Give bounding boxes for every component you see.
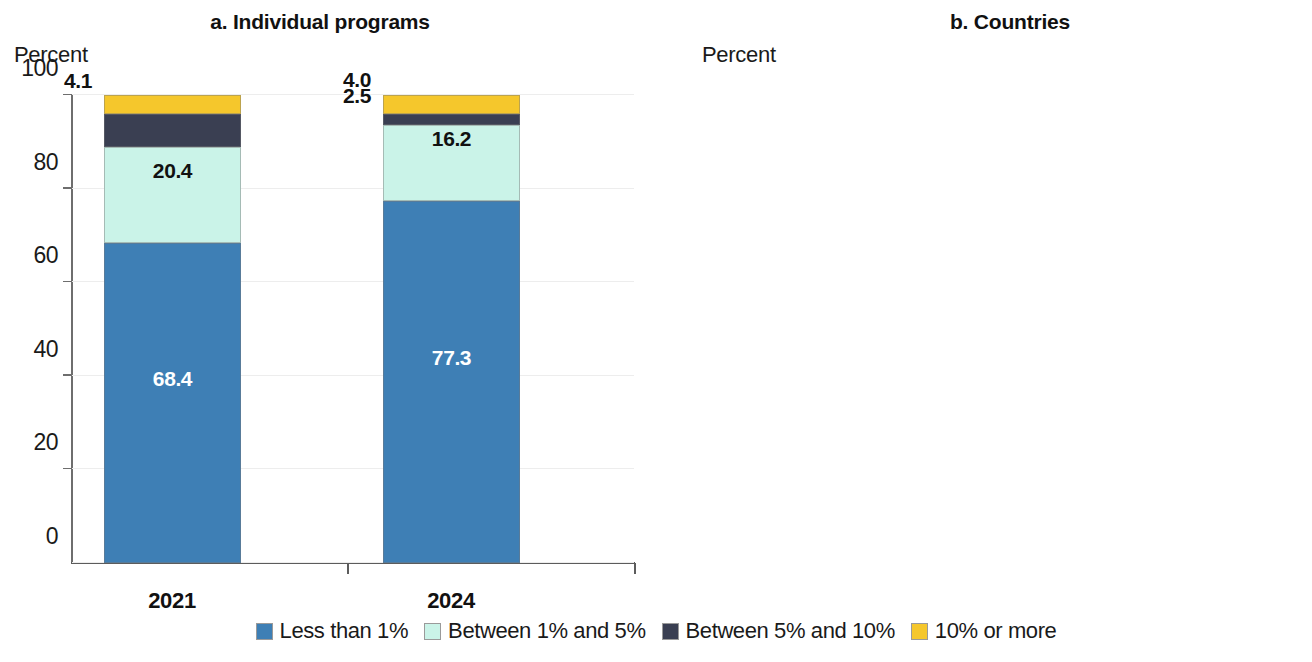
panel-a-bar-2021-segment-1[interactable] — [104, 243, 241, 563]
panel-a-ytick-80 — [63, 187, 72, 188]
panel-b-title: b. Countries — [698, 10, 1312, 34]
panel-a-ytick-label-0: 0 — [46, 523, 58, 550]
panel-a-bar-2021-label-4: 4.1 — [64, 69, 92, 93]
legend-item-less-than-1pct[interactable]: Less than 1% — [256, 618, 409, 644]
legend-swatch-icon-between-1-and-5pct — [424, 623, 441, 640]
legend-label-10pct-or-more: 10% or more — [935, 618, 1057, 644]
panel-a-ytick-label-20: 20 — [33, 429, 58, 456]
panel-b-y-axis-unit-label: Percent — [702, 42, 776, 68]
legend-label-less-than-1pct: Less than 1% — [280, 618, 409, 644]
figure-stacked-bar-percent: a. Individual programs Percent 0 20 40 6… — [0, 0, 1312, 662]
panel-a-ytick-label-60: 60 — [33, 242, 58, 269]
panel-a-xtick-mid — [347, 563, 349, 574]
panel-a-ytick-label-40: 40 — [33, 335, 58, 362]
panel-a-bar-2021[interactable]: 68.420.47.14.1 — [104, 95, 241, 563]
panel-a-bar-2024-segment-2[interactable] — [383, 125, 520, 201]
panel-a-bar-2024[interactable]: 77.316.22.54.0 — [383, 95, 520, 563]
panel-a-ytick-100 — [63, 94, 72, 95]
panel-a-bar-2021-segment-4[interactable] — [104, 95, 241, 114]
legend-item-between-1-and-5pct[interactable]: Between 1% and 5% — [424, 618, 645, 644]
legend-item-10pct-or-more[interactable]: 10% or more — [911, 618, 1057, 644]
legend-swatch-icon-less-than-1pct — [256, 623, 273, 640]
panel-a-ytick-20 — [63, 468, 72, 469]
legend-label-between-1-and-5pct: Between 1% and 5% — [448, 618, 645, 644]
panel-a-bar-2024-segment-3[interactable] — [383, 114, 520, 126]
panel-a-y-axis-line — [71, 95, 73, 563]
panel-a-ytick-label-100: 100 — [21, 55, 58, 82]
panel-a-xtick-end — [634, 563, 636, 574]
panel-a-ytick-label-80: 80 — [33, 148, 58, 175]
panel-a-bar-2021-segment-2[interactable] — [104, 147, 241, 242]
legend-swatch-icon-between-5-and-10pct — [662, 623, 679, 640]
panel-a-bar-2024-segment-1[interactable] — [383, 201, 520, 563]
panel-a-bar-2021-segment-3[interactable] — [104, 114, 241, 147]
legend-swatch-icon-10pct-or-more — [911, 623, 928, 640]
panel-a-title: a. Individual programs — [0, 10, 650, 34]
panel-a-bar-2024-label-4: 4.0 — [343, 68, 371, 92]
panel-a-ytick-60 — [63, 281, 72, 282]
legend-item-between-5-and-10pct[interactable]: Between 5% and 10% — [662, 618, 895, 644]
legend-label-between-5-and-10pct: Between 5% and 10% — [686, 618, 895, 644]
panel-a-bar-2024-label-3: 2.5 — [343, 84, 371, 108]
legend: Less than 1% Between 1% and 5% Between 5… — [0, 618, 1312, 644]
panel-a-ytick-40 — [63, 374, 72, 375]
panel-a-xtick-label-2021: 2021 — [148, 588, 196, 614]
panel-a-plot-area: 0 20 40 60 80 100 68.420.47.14.1 2021 77… — [72, 95, 634, 563]
panel-b-countries: b. Countries Percent 0 20 40 60 80 100 — [688, 0, 1312, 615]
panel-a-individual-programs: a. Individual programs Percent 0 20 40 6… — [0, 0, 660, 615]
panel-a-xtick-label-2024: 2024 — [427, 588, 475, 614]
panel-a-bar-2024-segment-4[interactable] — [383, 95, 520, 114]
